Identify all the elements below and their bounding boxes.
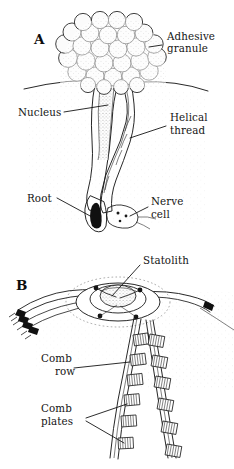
label-comb-plates-line2: plates: [41, 415, 73, 427]
panel-a-letter: A: [33, 31, 45, 47]
label-adhesive-granule-line2: granule: [167, 42, 208, 54]
label-nerve-cell-line1: Nerve: [151, 195, 183, 207]
figure-canvas: A: [0, 0, 234, 469]
label-comb-row-line2: row: [55, 365, 75, 377]
label-helical-thread-line2: thread: [170, 124, 205, 136]
panel-b-letter: B: [16, 277, 27, 293]
label-nucleus: Nucleus: [18, 106, 61, 118]
label-helical-thread-line1: Helical: [170, 111, 208, 123]
scientific-figure: A: [0, 0, 234, 469]
label-nerve-cell-line2: cell: [151, 208, 170, 220]
label-comb-row-line1: Comb: [41, 352, 72, 364]
statolith-body: [100, 285, 136, 307]
label-root: Root: [27, 192, 52, 204]
label-adhesive-granule-line1: Adhesive: [166, 30, 215, 42]
label-statolith: Statolith: [143, 254, 189, 266]
label-comb-plates-line1: Comb: [41, 402, 72, 414]
